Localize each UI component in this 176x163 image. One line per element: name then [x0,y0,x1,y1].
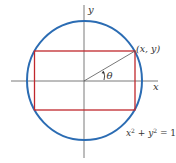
unit-circle-diagram: y x (x, y) θ x2 + y2 = 1 [0,0,176,163]
point-label: (x, y) [136,43,160,54]
angle-label: θ [107,70,113,81]
equation-rhs: = 1 [157,128,176,138]
equation-plus: + [135,128,148,138]
circle-equation: x2 + y2 = 1 [126,127,176,139]
y-axis-label: y [87,4,94,15]
x-axis-label: x [153,81,159,92]
